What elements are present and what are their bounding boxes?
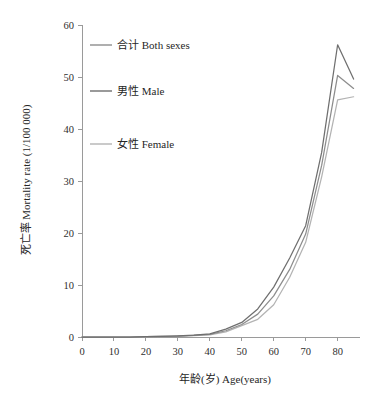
x-axis-ticks: 01020304050607080 [79,337,343,357]
y-tick-label: 40 [64,124,75,135]
x-tick-label: 40 [205,346,216,357]
x-tick-label: 30 [173,346,184,357]
legend-label-2: 女性 Female [117,137,174,150]
x-tick-label: 60 [268,346,279,357]
legend-label-0: 合计 Both sexes [117,38,190,51]
x-tick-label: 80 [332,346,343,357]
series-line-0 [82,75,354,337]
y-tick-label: 50 [64,72,75,83]
y-axis-ticks: 0102030405060 [64,20,83,343]
y-axis-title: 死亡率 Mortality rate (1/100 000) [19,104,33,255]
y-tick-label: 20 [64,228,75,239]
y-axis-group: 0102030405060 [64,20,83,343]
x-tick-label: 70 [300,346,311,357]
y-tick-label: 0 [69,332,74,343]
y-tick-label: 30 [64,176,75,187]
chart-container: 0102030405060 01020304050607080 合计 Both … [0,0,378,399]
x-tick-label: 50 [237,346,248,357]
mortality-rate-line-chart: 0102030405060 01020304050607080 合计 Both … [0,0,378,399]
chart-legend: 合计 Both sexes男性 Male女性 Female [90,38,190,150]
legend-label-1: 男性 Male [117,84,164,97]
x-axis-group: 01020304050607080 [79,337,360,357]
series-line-2 [82,97,354,337]
x-axis-title: 年龄(岁) Age(years) [179,372,271,386]
y-tick-label: 60 [64,20,75,31]
y-tick-label: 10 [64,280,75,291]
x-tick-label: 10 [109,346,120,357]
x-tick-label: 20 [141,346,152,357]
x-tick-label: 0 [79,346,84,357]
